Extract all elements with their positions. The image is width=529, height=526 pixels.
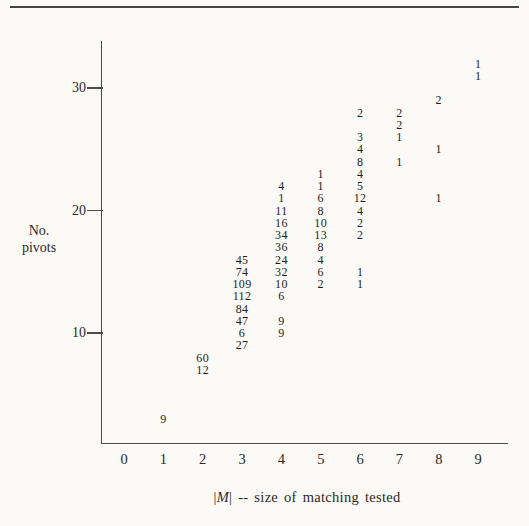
x-tick-label: 7 <box>386 451 412 468</box>
data-point: 84 <box>225 303 259 315</box>
data-point: 6 <box>225 327 259 339</box>
data-point: 9 <box>146 413 180 425</box>
y-tick-mark <box>87 332 103 333</box>
data-point: 45 <box>225 254 259 266</box>
data-point: 1 <box>343 266 377 278</box>
y-tick-label: 20 <box>54 202 86 220</box>
data-point: 4 <box>343 143 377 155</box>
data-point: 16 <box>264 217 298 229</box>
data-point: 6 <box>304 266 338 278</box>
data-point: 5 <box>343 180 377 192</box>
data-point: 10 <box>304 217 338 229</box>
data-point: 1 <box>343 278 377 290</box>
x-tick-label: 9 <box>465 451 491 468</box>
data-point: 2 <box>382 107 416 119</box>
data-point: 1 <box>304 168 338 180</box>
figure-page: No. pivots 102030 0123456789 96012457410… <box>0 0 529 526</box>
x-axis-title: |M| -- size of matching tested <box>101 489 513 506</box>
x-tick-label: 4 <box>268 451 294 468</box>
data-point: 32 <box>264 266 298 278</box>
y-tick-label: 10 <box>54 324 86 342</box>
data-point: 4 <box>343 205 377 217</box>
data-point: 3 <box>343 131 377 143</box>
x-tick-label: 8 <box>426 451 452 468</box>
data-point: 1 <box>304 180 338 192</box>
data-point: 1 <box>382 156 416 168</box>
data-point: 24 <box>264 254 298 266</box>
data-point: 109 <box>225 278 259 290</box>
data-point: 2 <box>422 94 456 106</box>
data-point: 36 <box>264 241 298 253</box>
y-tick-label: 30 <box>54 79 86 97</box>
data-point: 1 <box>461 70 495 82</box>
data-point: 4 <box>264 180 298 192</box>
x-axis-title-text: -- size of matching tested <box>232 489 400 505</box>
data-point: 1 <box>422 143 456 155</box>
x-tick-label: 6 <box>347 451 373 468</box>
data-point: 4 <box>343 168 377 180</box>
data-point: 47 <box>225 315 259 327</box>
x-axis-line <box>101 443 508 444</box>
data-point: 9 <box>264 327 298 339</box>
data-point: 4 <box>304 254 338 266</box>
data-point: 12 <box>343 192 377 204</box>
y-axis-line <box>101 41 102 444</box>
data-point: 27 <box>225 339 259 351</box>
data-point: 34 <box>264 229 298 241</box>
data-point: 1 <box>264 192 298 204</box>
data-point: 74 <box>225 266 259 278</box>
x-tick-label: 2 <box>190 451 216 468</box>
x-tick-label: 5 <box>308 451 334 468</box>
y-axis-title: No. pivots <box>10 223 68 256</box>
data-point: 2 <box>343 229 377 241</box>
y-axis-title-line2: pivots <box>10 240 68 257</box>
data-point: 8 <box>304 241 338 253</box>
y-tick-mark <box>87 210 103 211</box>
data-point: 1 <box>461 58 495 70</box>
y-tick-mark <box>87 87 103 88</box>
data-point: 11 <box>264 205 298 217</box>
data-point: 2 <box>343 217 377 229</box>
data-point: 6 <box>304 192 338 204</box>
data-point: 2 <box>304 278 338 290</box>
data-point: 12 <box>186 364 220 376</box>
data-point: 8 <box>304 205 338 217</box>
data-point: 1 <box>422 192 456 204</box>
data-point: 2 <box>343 107 377 119</box>
data-point: 6 <box>264 290 298 302</box>
data-point: 2 <box>382 119 416 131</box>
top-rule <box>10 6 519 8</box>
data-point: 1 <box>382 131 416 143</box>
data-point: 60 <box>186 352 220 364</box>
x-tick-label: 1 <box>150 451 176 468</box>
x-tick-label: 3 <box>229 451 255 468</box>
data-point: 13 <box>304 229 338 241</box>
data-point: 112 <box>225 290 259 302</box>
data-point: 10 <box>264 278 298 290</box>
data-point: 8 <box>343 156 377 168</box>
x-axis-title-math-m: M <box>217 489 229 505</box>
data-point: 9 <box>264 315 298 327</box>
y-axis-title-line1: No. <box>10 223 68 240</box>
x-tick-label: 0 <box>111 451 137 468</box>
